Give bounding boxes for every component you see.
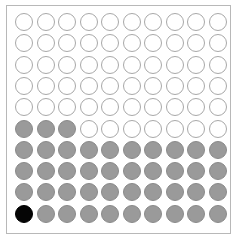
waffle-cell-empty [15, 98, 33, 116]
waffle-cell-empty [187, 98, 205, 116]
waffle-cell-filled [187, 183, 205, 201]
waffle-cell-empty [209, 13, 227, 31]
waffle-cell-empty [80, 56, 98, 74]
waffle-cell-filled [187, 205, 205, 223]
waffle-cell-filled [209, 205, 227, 223]
waffle-cell-empty [166, 13, 184, 31]
waffle-cell-filled [58, 205, 76, 223]
waffle-cell-filled [58, 120, 76, 138]
waffle-cell-empty [58, 34, 76, 52]
waffle-cell-empty [209, 56, 227, 74]
waffle-cell-filled [37, 183, 55, 201]
waffle-cell-empty [123, 56, 141, 74]
waffle-cell-filled [123, 141, 141, 159]
waffle-cell-empty [101, 77, 119, 95]
waffle-cell-empty [123, 77, 141, 95]
waffle-cell-empty [37, 77, 55, 95]
waffle-cell-empty [15, 13, 33, 31]
waffle-cell-empty [144, 98, 162, 116]
waffle-cell-empty [144, 56, 162, 74]
waffle-cell-filled [166, 205, 184, 223]
waffle-cell-empty [80, 120, 98, 138]
waffle-cell-filled [209, 141, 227, 159]
waffle-cell-filled [15, 162, 33, 180]
waffle-cell-filled [80, 183, 98, 201]
waffle-cell-empty [166, 98, 184, 116]
waffle-cell-filled [187, 162, 205, 180]
waffle-cell-filled [58, 162, 76, 180]
waffle-cell-filled [101, 141, 119, 159]
waffle-cell-empty [101, 13, 119, 31]
waffle-cell-empty [80, 98, 98, 116]
waffle-cell-empty [144, 77, 162, 95]
waffle-cell-filled [166, 183, 184, 201]
waffle-cell-empty [209, 34, 227, 52]
waffle-cell-empty [37, 98, 55, 116]
waffle-cell-filled [37, 162, 55, 180]
waffle-cell-empty [187, 120, 205, 138]
waffle-cell-empty [123, 98, 141, 116]
waffle-cell-empty [166, 77, 184, 95]
waffle-cell-empty [209, 77, 227, 95]
waffle-cell-empty [80, 77, 98, 95]
waffle-cell-filled [15, 141, 33, 159]
waffle-cell-empty [15, 34, 33, 52]
waffle-cell-filled [37, 141, 55, 159]
waffle-cell-empty [15, 77, 33, 95]
waffle-cell-empty [187, 77, 205, 95]
waffle-cell-empty [123, 120, 141, 138]
waffle-cell-filled [123, 162, 141, 180]
waffle-cell-empty [80, 34, 98, 52]
waffle-cell-empty [101, 120, 119, 138]
waffle-cell-empty [209, 98, 227, 116]
waffle-cell-empty [58, 77, 76, 95]
waffle-cell-empty [37, 34, 55, 52]
waffle-cell-filled [15, 120, 33, 138]
waffle-cell-empty [37, 13, 55, 31]
waffle-cell-filled [101, 162, 119, 180]
waffle-cell-empty [144, 13, 162, 31]
waffle-cell-filled [187, 141, 205, 159]
waffle-cell-filled [209, 183, 227, 201]
waffle-grid [0, 0, 242, 241]
waffle-cell-highlight [15, 205, 33, 223]
waffle-cell-filled [101, 205, 119, 223]
waffle-cell-empty [166, 56, 184, 74]
waffle-cell-empty [123, 13, 141, 31]
waffle-cell-empty [101, 56, 119, 74]
waffle-cell-filled [144, 162, 162, 180]
waffle-cell-empty [123, 34, 141, 52]
waffle-cell-filled [144, 205, 162, 223]
waffle-cell-filled [15, 183, 33, 201]
waffle-cell-filled [166, 162, 184, 180]
waffle-cell-empty [144, 120, 162, 138]
waffle-cell-empty [15, 56, 33, 74]
waffle-cell-empty [209, 120, 227, 138]
waffle-cell-filled [166, 141, 184, 159]
waffle-cell-empty [144, 34, 162, 52]
waffle-cell-filled [123, 205, 141, 223]
waffle-cell-empty [187, 13, 205, 31]
waffle-cell-filled [58, 141, 76, 159]
waffle-cell-empty [101, 34, 119, 52]
waffle-cell-filled [209, 162, 227, 180]
waffle-cell-empty [58, 98, 76, 116]
waffle-cell-filled [80, 205, 98, 223]
waffle-cell-filled [101, 183, 119, 201]
waffle-cell-filled [80, 141, 98, 159]
waffle-cell-empty [58, 13, 76, 31]
waffle-cell-filled [37, 120, 55, 138]
waffle-cell-empty [80, 13, 98, 31]
waffle-cell-filled [58, 183, 76, 201]
waffle-cell-filled [123, 183, 141, 201]
waffle-cell-filled [80, 162, 98, 180]
waffle-cell-empty [166, 120, 184, 138]
waffle-cell-empty [187, 34, 205, 52]
waffle-cell-filled [37, 205, 55, 223]
waffle-cell-empty [166, 34, 184, 52]
waffle-cell-empty [187, 56, 205, 74]
waffle-cell-filled [144, 183, 162, 201]
waffle-cell-empty [101, 98, 119, 116]
waffle-cell-filled [144, 141, 162, 159]
waffle-cell-empty [37, 56, 55, 74]
